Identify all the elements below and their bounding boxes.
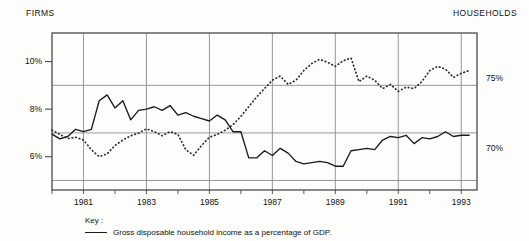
x-axis-tick-label: 1993 bbox=[441, 197, 481, 207]
x-axis-tick-label: 1991 bbox=[378, 197, 418, 207]
x-axis-tick-label: 1987 bbox=[252, 197, 292, 207]
gridlines bbox=[52, 33, 477, 190]
x-axis-tick-label: 1981 bbox=[63, 197, 103, 207]
x-axis-tick-label: 1989 bbox=[315, 197, 355, 207]
legend-entry-label: Gross disposable household income as a p… bbox=[113, 228, 331, 237]
left-axis-tick-label: 8% bbox=[8, 104, 42, 114]
chart-legend: Key : Gross disposable household income … bbox=[85, 216, 331, 237]
legend-entry: Gross disposable household income as a p… bbox=[85, 228, 331, 237]
x-axis-tick-label: 1985 bbox=[189, 197, 229, 207]
series-line-firms bbox=[52, 95, 469, 166]
axis-ticks bbox=[45, 62, 461, 194]
legend-entries: Gross disposable household income as a p… bbox=[85, 228, 331, 237]
right-axis-tick-label: 70% bbox=[486, 143, 503, 153]
x-axis-tick-label: 1983 bbox=[126, 197, 166, 207]
chart-figure: FIRMS HOUSEHOLDS 10%8%6% 75%70% 19811983… bbox=[0, 0, 529, 241]
data-series bbox=[52, 58, 469, 166]
left-axis-tick-label: 6% bbox=[8, 151, 42, 161]
plot-frame bbox=[52, 33, 477, 190]
legend-swatch-solid bbox=[85, 232, 107, 233]
right-axis-tick-label: 75% bbox=[486, 73, 503, 83]
plot-border bbox=[52, 33, 477, 190]
left-axis-tick-label: 10% bbox=[8, 56, 42, 66]
legend-title: Key : bbox=[85, 216, 331, 225]
